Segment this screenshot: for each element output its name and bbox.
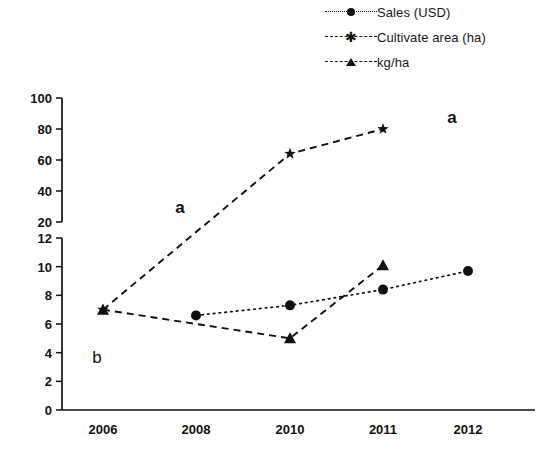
x-tick-label: 2006 <box>89 422 118 437</box>
lower-tick-label: 12 <box>38 231 52 246</box>
data-point-circle-marker <box>191 310 201 320</box>
series-kg-ha <box>97 259 389 343</box>
x-tick-label: 2008 <box>182 422 211 437</box>
series-cultivate-area-ha <box>97 123 388 315</box>
x-tick-label: 2011 <box>369 422 397 437</box>
x-ticks: 20062008201020112012 <box>89 422 483 437</box>
lower-tick-label: 8 <box>45 288 52 303</box>
x-tick-label: 2010 <box>276 422 305 437</box>
lower-tick-label: 0 <box>45 403 52 418</box>
upper-tick-label: 100 <box>30 91 52 106</box>
lower-tick-label: 2 <box>45 374 52 389</box>
data-point-circle-marker <box>463 266 473 276</box>
lower-y-ticks: 024681012 <box>38 231 62 418</box>
figure-container: Sales (USD) ✱ Cultivate area (ha) kg/ha <box>0 0 543 467</box>
series-line <box>103 129 383 310</box>
chart-annotation-letter: b <box>92 348 101 367</box>
data-point-circle-marker <box>378 285 388 295</box>
chart-plot-area: 20406080100 024681012 200620082010201120… <box>0 0 543 467</box>
lower-tick-label: 10 <box>38 260 52 275</box>
data-point-star-marker <box>284 148 295 159</box>
upper-y-ticks: 20406080100 <box>30 91 62 230</box>
chart-annotation-letter: a <box>175 198 185 217</box>
data-point-triangle-marker <box>377 259 389 270</box>
data-series-layer <box>97 123 473 343</box>
lower-tick-label: 6 <box>45 317 52 332</box>
chart-annotation-letter: a <box>447 108 457 127</box>
lower-tick-label: 4 <box>45 346 53 361</box>
upper-tick-label: 60 <box>38 153 52 168</box>
series-line <box>196 271 468 315</box>
upper-tick-label: 20 <box>38 215 52 230</box>
axes <box>62 98 535 410</box>
upper-tick-label: 80 <box>38 122 52 137</box>
data-point-star-marker <box>377 123 388 134</box>
data-point-circle-marker <box>285 300 295 310</box>
x-tick-label: 2012 <box>454 422 483 437</box>
series-line <box>103 265 383 338</box>
annotation-layer: aab <box>92 108 457 367</box>
series-sales-usd <box>191 266 473 320</box>
upper-tick-label: 40 <box>38 184 52 199</box>
